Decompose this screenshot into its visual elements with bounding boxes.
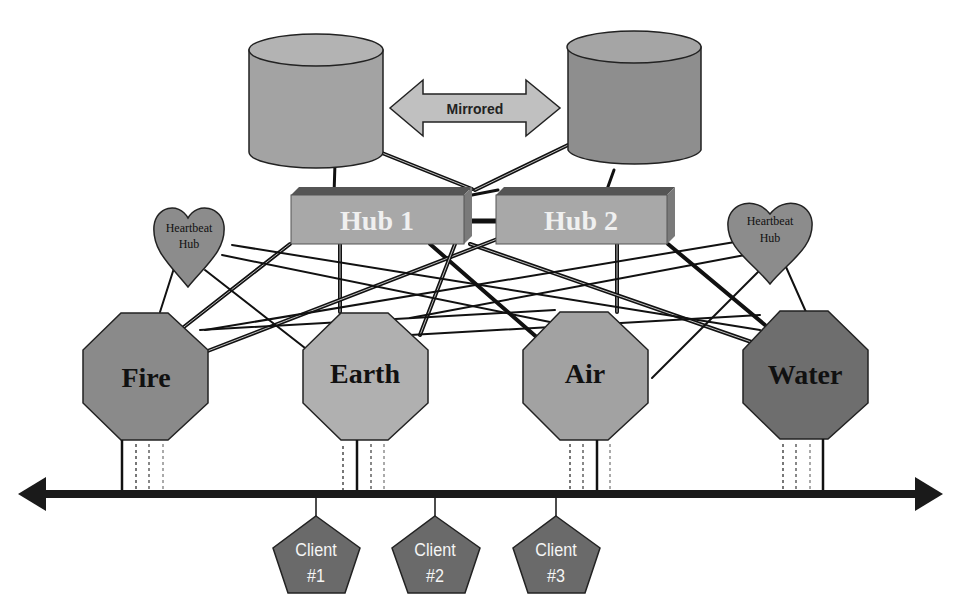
- heartbeat-hub-right: Heartbeat Hub: [728, 203, 812, 284]
- client-3: Client #3: [513, 516, 600, 593]
- client-drops: [316, 498, 556, 516]
- heartbeat-right-line1: Heartbeat: [747, 214, 794, 228]
- mirrored-arrow: Mirrored: [390, 80, 560, 136]
- client-3-line2: #3: [547, 565, 565, 587]
- client-2: Client #2: [392, 516, 480, 593]
- server-drops: [122, 439, 823, 493]
- client-1: Client #1: [273, 516, 360, 593]
- heartbeat-left-line1: Heartbeat: [166, 221, 213, 235]
- database-left: [249, 34, 383, 168]
- network-backbone: [18, 477, 943, 511]
- client-3-line1: Client: [535, 539, 576, 561]
- heartbeat-left-line2: Hub: [179, 237, 200, 251]
- server-fire-label: Fire: [121, 362, 170, 393]
- client-1-line2: #1: [307, 565, 325, 587]
- network-diagram: Mirrored Hub 1 Hub 2 Heartbeat Hub Heart…: [0, 0, 960, 610]
- backbone-left-arrowhead-icon: [18, 477, 46, 511]
- server-fire: Fire: [83, 313, 208, 440]
- connection-lines: [160, 145, 806, 378]
- mirrored-label: Mirrored: [447, 101, 504, 117]
- backbone-right-arrowhead-icon: [915, 477, 943, 511]
- server-water: Water: [743, 311, 868, 439]
- hub-1: Hub 1: [291, 187, 472, 244]
- client-2-line2: #2: [426, 565, 444, 587]
- hub-2-label: Hub 2: [544, 205, 618, 236]
- heartbeat-hub-left: Heartbeat Hub: [154, 208, 224, 287]
- server-air-label: Air: [565, 358, 605, 389]
- server-earth-label: Earth: [330, 358, 400, 389]
- hub-1-label: Hub 1: [340, 205, 414, 236]
- server-air: Air: [523, 312, 648, 440]
- client-2-line1: Client: [414, 539, 455, 561]
- heartbeat-right-line2: Hub: [760, 231, 781, 245]
- client-1-line1: Client: [295, 539, 336, 561]
- server-earth: Earth: [303, 313, 428, 440]
- server-water-label: Water: [768, 359, 843, 390]
- database-right: [567, 31, 701, 164]
- hub-2: Hub 2: [496, 187, 675, 244]
